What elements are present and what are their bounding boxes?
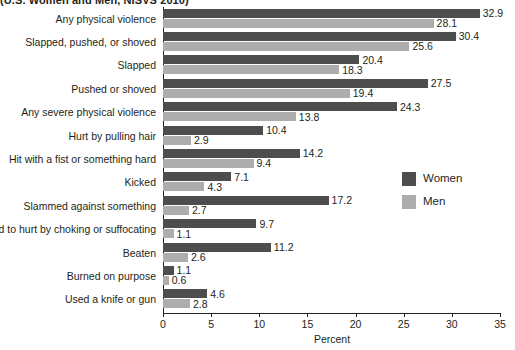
x-tick-mark [404, 314, 405, 317]
bar-men: 2.7 [163, 206, 189, 215]
category-label: Hurt by pulling hair [68, 130, 156, 141]
category-label: Slapped, pushed, or shoved [25, 37, 156, 48]
category-label: Slammed against something [24, 201, 157, 212]
bar-value-label: 32.9 [483, 8, 503, 19]
bar-value-label: 9.4 [257, 158, 272, 169]
bar-value-label: 10.4 [266, 125, 286, 136]
bar-men: 25.6 [163, 42, 409, 51]
bar-women: 11.2 [163, 243, 271, 252]
x-tick-label: 20 [350, 318, 362, 330]
x-tick-label: 15 [302, 318, 314, 330]
category-label: Hit with a fist or something hard [9, 154, 156, 165]
x-tick-mark [500, 314, 501, 317]
bar-value-label: 13.8 [299, 111, 319, 122]
bar-men: 9.4 [163, 159, 254, 168]
bar-men: 19.4 [163, 89, 350, 98]
chart-row: Slapped, pushed, or shoved30.425.6 [163, 30, 500, 53]
bar-value-label: 30.4 [459, 31, 479, 42]
category-label: Pushed or shoved [71, 84, 156, 95]
bar-men: 13.8 [163, 112, 296, 121]
chart-title: (U.S. Women and Men, NISVS 2010) [0, 0, 189, 6]
bar-women: 32.9 [163, 9, 480, 18]
chart-row: Burned on purpose1.10.6 [163, 264, 500, 287]
plot-area: Any physical violence32.928.1Slapped, pu… [163, 7, 500, 313]
chart-row: Pushed or shoved27.519.4 [163, 77, 500, 100]
bar-women: 10.4 [163, 126, 263, 135]
category-label: Used a knife or gun [65, 294, 156, 305]
chart-row: Hit with a fist or something hard14.29.4 [163, 147, 500, 170]
category-label: Any physical violence [56, 13, 156, 24]
x-tick-mark [356, 314, 357, 317]
bar-value-label: 2.9 [194, 135, 209, 146]
bar-value-label: 4.3 [207, 182, 222, 193]
x-tick-label: 10 [253, 318, 265, 330]
bar-value-label: 1.1 [177, 228, 192, 239]
legend-item-women: Women [402, 172, 462, 186]
bar-value-label: 20.4 [362, 55, 382, 66]
chart-row: Slapped20.418.3 [163, 54, 500, 77]
bar-men: 28.1 [163, 19, 434, 28]
x-tick-label: 30 [446, 318, 458, 330]
bar-value-label: 17.2 [332, 195, 352, 206]
bar-value-label: 25.6 [412, 41, 432, 52]
legend-label: Men [423, 196, 445, 208]
bar-men: 2.9 [163, 136, 191, 145]
x-tick-mark [163, 314, 164, 317]
chart-row: Beaten11.22.6 [163, 241, 500, 264]
bar-value-label: 0.6 [172, 275, 187, 286]
bar-value-label: 28.1 [437, 18, 457, 29]
bar-value-label: 24.3 [400, 101, 420, 112]
bar-women: 24.3 [163, 102, 397, 111]
chart-row: Used a knife or gun4.62.8 [163, 288, 500, 311]
bar-men: 4.3 [163, 182, 204, 191]
x-tick-label: 5 [208, 318, 214, 330]
x-tick-mark [259, 314, 260, 317]
legend-item-men: Men [402, 195, 462, 209]
category-label: Any severe physical violence [21, 107, 156, 118]
chart-row: Hurt by pulling hair10.42.9 [163, 124, 500, 147]
category-label: Slapped [117, 60, 156, 71]
bar-value-label: 4.6 [210, 289, 225, 300]
x-axis-line [163, 313, 501, 314]
bar-value-label: 2.7 [192, 205, 207, 216]
chart-legend: WomenMen [402, 172, 462, 218]
x-tick-mark [211, 314, 212, 317]
category-label: Tried to hurt by choking or suffocating [0, 224, 156, 235]
bar-value-label: 7.1 [234, 172, 249, 183]
x-tick-mark [307, 314, 308, 317]
chart-row: Any physical violence32.928.1 [163, 7, 500, 30]
bar-value-label: 9.7 [259, 218, 274, 229]
bar-men: 0.6 [163, 276, 169, 285]
bar-value-label: 27.5 [431, 78, 451, 89]
bar-value-label: 14.2 [303, 148, 323, 159]
bar-women: 14.2 [163, 149, 300, 158]
bar-women: 17.2 [163, 196, 329, 205]
x-tick-label: 35 [494, 318, 506, 330]
chart-row: Tried to hurt by choking or suffocating9… [163, 218, 500, 241]
bar-women: 20.4 [163, 55, 359, 64]
bar-value-label: 11.2 [274, 242, 294, 253]
category-label: Kicked [124, 177, 156, 188]
chart-row: Any severe physical violence24.313.8 [163, 101, 500, 124]
bar-value-label: 19.4 [353, 88, 373, 99]
bar-value-label: 2.6 [191, 252, 206, 263]
legend-swatch-icon [402, 195, 416, 209]
x-tick-mark [452, 314, 453, 317]
bar-men: 2.8 [163, 299, 190, 308]
legend-label: Women [423, 173, 462, 185]
x-axis-label: Percent [163, 333, 501, 345]
bar-chart: (U.S. Women and Men, NISVS 2010) Any phy… [0, 0, 515, 350]
bar-value-label: 2.8 [193, 299, 208, 310]
category-label: Burned on purpose [67, 271, 156, 282]
bar-men: 1.1 [163, 229, 174, 238]
bar-men: 18.3 [163, 65, 339, 74]
legend-swatch-icon [402, 172, 416, 186]
x-tick-label: 25 [398, 318, 410, 330]
x-tick-label: 0 [160, 318, 166, 330]
category-label: Beaten [123, 247, 156, 258]
bar-value-label: 18.3 [342, 65, 362, 76]
bar-women: 27.5 [163, 79, 428, 88]
bar-men: 2.6 [163, 253, 188, 262]
